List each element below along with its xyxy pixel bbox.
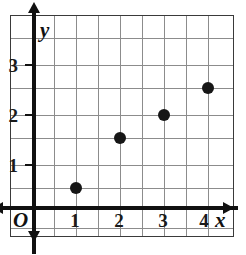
data-point <box>202 82 214 94</box>
coordinate-plane-figure: 3 2 1 1 2 3 4 y x O <box>0 0 246 255</box>
x-axis-line <box>1 206 238 210</box>
y-axis-label: y <box>40 20 49 41</box>
x-tick-label-4: 4 <box>194 211 214 230</box>
gridline-vertical <box>142 16 143 236</box>
origin-label: O <box>13 210 28 231</box>
gridline-horizontal <box>11 188 233 189</box>
data-point <box>70 182 82 194</box>
data-point <box>114 132 126 144</box>
gridline-vertical <box>208 16 209 236</box>
gridline-horizontal <box>11 65 233 66</box>
gridline-vertical <box>98 16 99 236</box>
gridline-vertical <box>186 16 187 236</box>
y-tick-label-1: 1 <box>0 156 18 175</box>
y-axis-tick <box>25 64 32 66</box>
y-axis-tick <box>25 114 32 116</box>
gridline-horizontal <box>11 115 233 116</box>
y-tick-label-2: 2 <box>0 106 18 125</box>
gridline-horizontal <box>11 165 233 166</box>
y-axis-tick <box>25 164 32 166</box>
gridline-vertical <box>76 16 77 236</box>
gridline-vertical <box>54 16 55 236</box>
y-axis-line <box>32 11 36 254</box>
x-tick-label-2: 2 <box>109 211 129 230</box>
gridline-vertical <box>120 16 121 236</box>
x-tick-label-1: 1 <box>65 211 85 230</box>
y-axis-arrow-down-icon <box>28 231 40 242</box>
y-tick-label-3: 3 <box>0 56 18 75</box>
y-axis-arrow-up-icon <box>28 2 40 13</box>
x-axis-arrow-left-icon <box>0 202 3 214</box>
gridline-horizontal <box>11 88 233 89</box>
data-point <box>158 109 170 121</box>
x-tick-label-3: 3 <box>153 211 173 230</box>
gridline-vertical <box>164 16 165 236</box>
x-axis-label: x <box>215 210 226 231</box>
plot-grid-frame <box>10 15 234 237</box>
